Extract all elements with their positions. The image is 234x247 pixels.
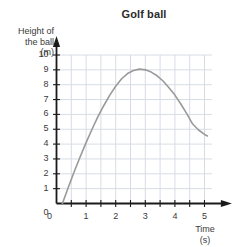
- grid-lines: [57, 55, 212, 204]
- curve-path: [62, 69, 207, 203]
- data-curve: [62, 69, 207, 203]
- x-tick-label: 1: [79, 211, 93, 221]
- axis-lines: [53, 36, 232, 207]
- y-tick-label: 3: [35, 153, 49, 163]
- chart-figure: Golf ball Height of the ball (m) Time (s…: [0, 0, 234, 247]
- y-tick-label: 5: [35, 123, 49, 133]
- y-tick-label: 1: [35, 183, 49, 193]
- x-tick-label: 2: [109, 211, 123, 221]
- x-tick-label: 0: [43, 211, 57, 221]
- x-axis-arrowhead: [221, 200, 232, 207]
- axis-ticks: [53, 55, 205, 207]
- y-tick-label: 6: [35, 108, 49, 118]
- y-tick-label: 8: [35, 79, 49, 89]
- y-axis-arrowhead: [53, 36, 60, 47]
- y-tick-label: 7: [35, 94, 49, 104]
- y-tick-label: 10: [35, 49, 49, 59]
- y-tick-label: 2: [35, 168, 49, 178]
- y-tick-label: 9: [35, 64, 49, 74]
- y-tick-label: 4: [35, 138, 49, 148]
- x-tick-label: 3: [138, 211, 152, 221]
- x-tick-label: 4: [168, 211, 182, 221]
- x-tick-label: 5: [198, 211, 212, 221]
